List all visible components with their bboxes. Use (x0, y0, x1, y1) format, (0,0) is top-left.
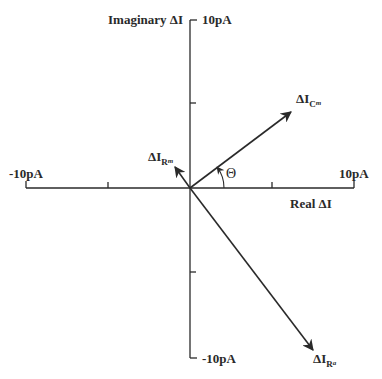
x-max-label: 10pA (339, 167, 369, 180)
imaginary-axis-label: Imaginary ΔI (108, 13, 183, 26)
real-axis-label: Real ΔI (290, 197, 332, 210)
vector-i-cm (190, 112, 291, 188)
y-max-label: 10pA (202, 13, 232, 26)
vector-i-rm (175, 167, 190, 188)
angle-arc (217, 167, 224, 188)
y-min-label: -10pA (202, 352, 236, 365)
vector-label-i-ra: ΔIRa (313, 352, 336, 365)
vector-label-i-rm: ΔIRm (148, 150, 173, 163)
vector-i-ra (190, 188, 313, 350)
theta-label: Θ (226, 167, 236, 181)
phasor-diagram (0, 0, 382, 379)
x-min-label: -10pA (9, 167, 43, 180)
vector-label-i-cm: ΔICm (296, 92, 321, 105)
